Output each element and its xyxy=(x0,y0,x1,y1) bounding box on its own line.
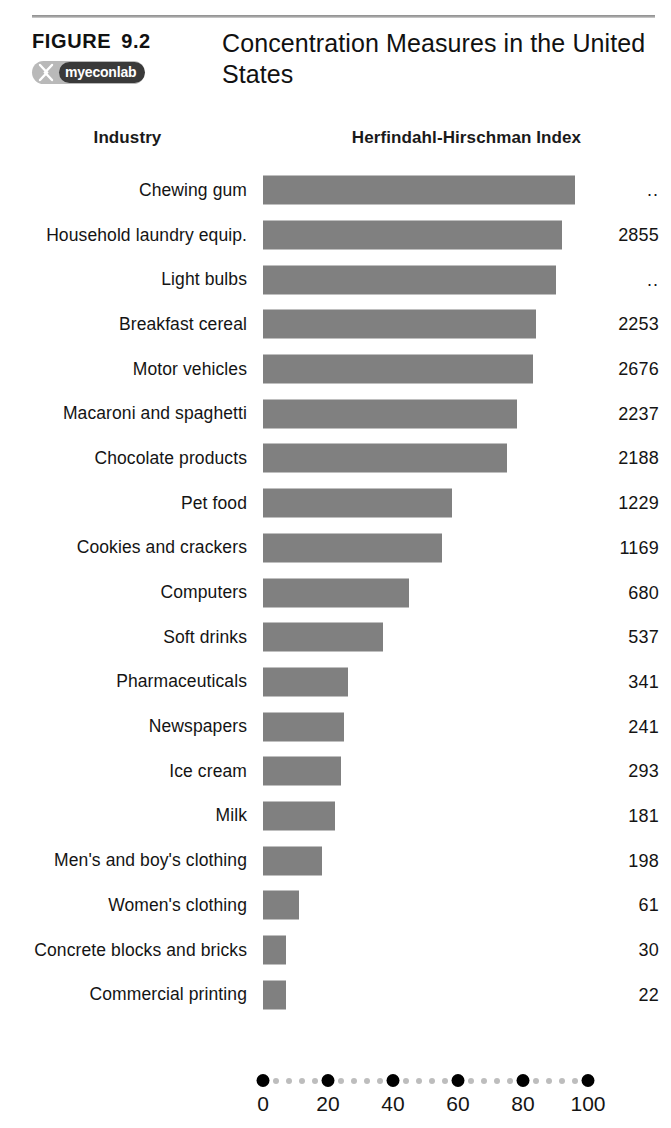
axis-major-tick-dot xyxy=(582,1074,595,1087)
bar xyxy=(263,533,442,562)
row-bar-area: 61 xyxy=(255,883,671,928)
row-industry-label: Men's and boy's clothing xyxy=(0,850,255,871)
row-bar-area: 537 xyxy=(255,615,671,660)
row-bar-area: 181 xyxy=(255,794,671,839)
column-header-hhi: Herfindahl-Hirschman Index xyxy=(262,128,671,148)
row-hhi-value: 22 xyxy=(591,984,671,1005)
row-industry-label: Computers xyxy=(0,582,255,603)
table-row: Men's and boy's clothing198 xyxy=(0,838,671,883)
row-hhi-value: 2676 xyxy=(591,359,671,380)
axis-minor-tick-dot xyxy=(338,1078,344,1084)
row-hhi-value: 2188 xyxy=(591,448,671,469)
row-bar-area: 241 xyxy=(255,704,671,749)
bar xyxy=(263,578,409,607)
row-bar-area: 2188 xyxy=(255,436,671,481)
table-row: Household laundry equip.2855 xyxy=(0,213,671,258)
myeconlab-text-lab: lab xyxy=(117,64,137,80)
bar xyxy=(263,176,575,205)
row-hhi-value: 2237 xyxy=(591,403,671,424)
row-hhi-value: 293 xyxy=(591,761,671,782)
row-bar-area: 30 xyxy=(255,928,671,973)
row-bar-area: 198 xyxy=(255,838,671,883)
figure-label: FIGURE xyxy=(32,30,111,52)
myeconlab-text-my: my xyxy=(65,64,85,80)
table-row: Light bulbs.. xyxy=(0,257,671,302)
figure-header-left: FIGURE9.2 myeconlab xyxy=(32,28,222,86)
myeconlab-badge[interactable]: myeconlab xyxy=(32,61,145,84)
table-row: Macaroni and spaghetti2237 xyxy=(0,391,671,436)
axis-minor-tick-dot xyxy=(403,1078,409,1084)
row-bar-area: 2855 xyxy=(255,213,671,258)
chart-rows: Chewing gum..Household laundry equip.285… xyxy=(0,168,671,1017)
figure-page: { "figure": { "label": "FIGURE", "number… xyxy=(0,0,671,1128)
figure-number: 9.2 xyxy=(121,30,151,52)
table-row: Women's clothing61 xyxy=(0,883,671,928)
axis-major-tick-dot xyxy=(387,1074,400,1087)
bar xyxy=(263,936,286,965)
table-row: Chocolate products2188 xyxy=(0,436,671,481)
bar xyxy=(263,667,348,696)
table-row: Commercial printing22 xyxy=(0,972,671,1017)
axis-tick-label: 20 xyxy=(316,1092,339,1116)
table-row: Newspapers241 xyxy=(0,704,671,749)
x-axis-dot-track xyxy=(0,1074,671,1090)
bar xyxy=(263,310,536,339)
bar xyxy=(263,444,507,473)
axis-tick-label: 100 xyxy=(570,1092,605,1116)
row-industry-label: Concrete blocks and bricks xyxy=(0,940,255,961)
row-bar-area: 341 xyxy=(255,660,671,705)
row-industry-label: Household laundry equip. xyxy=(0,225,255,246)
bar xyxy=(263,489,452,518)
bar xyxy=(263,712,344,741)
row-bar-area: .. xyxy=(255,257,671,302)
x-axis-tick-labels: 020406080100 xyxy=(0,1092,671,1122)
row-bar-area: 680 xyxy=(255,570,671,615)
row-bar-area: 1229 xyxy=(255,481,671,526)
table-row: Concrete blocks and bricks30 xyxy=(0,928,671,973)
axis-minor-tick-dot xyxy=(468,1078,474,1084)
axis-major-tick-dot xyxy=(517,1074,530,1087)
axis-minor-tick-dot xyxy=(533,1078,539,1084)
row-industry-label: Commercial printing xyxy=(0,984,255,1005)
row-bar-area: 2253 xyxy=(255,302,671,347)
axis-minor-tick-dot xyxy=(416,1078,422,1084)
row-industry-label: Soft drinks xyxy=(0,627,255,648)
axis-tick-label: 80 xyxy=(511,1092,534,1116)
axis-tick-label: 40 xyxy=(381,1092,404,1116)
table-row: Breakfast cereal2253 xyxy=(0,302,671,347)
bar xyxy=(263,801,335,830)
table-row: Chewing gum.. xyxy=(0,168,671,213)
row-hhi-value: 30 xyxy=(591,940,671,961)
axis-tick-label: 0 xyxy=(257,1092,269,1116)
column-header-industry: Industry xyxy=(0,128,255,148)
row-hhi-value: 1229 xyxy=(591,493,671,514)
axis-minor-tick-dot xyxy=(299,1078,305,1084)
bar xyxy=(263,221,562,250)
myeconlab-x-icon xyxy=(36,63,58,82)
row-industry-label: Milk xyxy=(0,805,255,826)
row-industry-label: Newspapers xyxy=(0,716,255,737)
table-row: Pet food1229 xyxy=(0,481,671,526)
figure-header: FIGURE9.2 myeconlab Concentration Measur… xyxy=(32,28,655,89)
row-bar-area: 293 xyxy=(255,749,671,794)
row-industry-label: Breakfast cereal xyxy=(0,314,255,335)
bar xyxy=(263,399,517,428)
row-industry-label: Women's clothing xyxy=(0,895,255,916)
x-axis: 020406080100 xyxy=(0,1062,671,1128)
bar xyxy=(263,846,322,875)
row-industry-label: Ice cream xyxy=(0,761,255,782)
table-row: Cookies and crackers1169 xyxy=(0,526,671,571)
row-industry-label: Pet food xyxy=(0,493,255,514)
row-industry-label: Chewing gum xyxy=(0,180,255,201)
row-bar-area: .. xyxy=(255,168,671,213)
row-hhi-value: 61 xyxy=(591,895,671,916)
row-industry-label: Motor vehicles xyxy=(0,359,255,380)
table-row: Ice cream293 xyxy=(0,749,671,794)
myeconlab-badge-text: myeconlab xyxy=(59,62,145,83)
column-headers: Industry Herfindahl-Hirschman Index xyxy=(0,128,671,154)
axis-minor-tick-dot xyxy=(559,1078,565,1084)
row-hhi-value: 1169 xyxy=(591,537,671,558)
table-row: Pharmaceuticals341 xyxy=(0,660,671,705)
header-divider-rule xyxy=(32,15,655,18)
axis-minor-tick-dot xyxy=(364,1078,370,1084)
